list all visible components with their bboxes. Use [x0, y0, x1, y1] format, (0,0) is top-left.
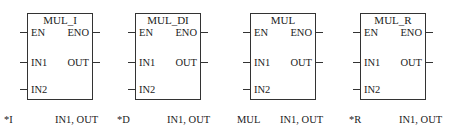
mul-di-block: MUL_DI EN IN1 IN2 ENO OUT [135, 13, 201, 100]
mul-i-block: MUL_I EN IN1 IN2 ENO OUT [27, 13, 93, 100]
stl-operands: IN1, OUT [399, 114, 442, 126]
out-output-wire [93, 62, 100, 63]
out-pin-label: OUT [175, 57, 197, 68]
in2-pin-label: IN2 [364, 84, 380, 95]
out-output-wire [316, 62, 323, 63]
out-output-wire [426, 62, 433, 63]
eno-output-wire [316, 32, 323, 33]
mul-block: MUL EN IN1 IN2 ENO OUT [250, 13, 316, 100]
out-pin-label: OUT [67, 57, 89, 68]
en-pin-label: EN [254, 27, 268, 38]
en-pin-label: EN [139, 27, 153, 38]
stl-operands: IN1, OUT [55, 114, 98, 126]
eno-pin-label: ENO [290, 27, 312, 38]
out-output-wire [201, 62, 208, 63]
out-pin-label: OUT [290, 57, 312, 68]
in1-input-wire [353, 62, 360, 63]
en-pin-label: EN [364, 27, 378, 38]
in2-pin-label: IN2 [139, 84, 155, 95]
eno-pin-label: ENO [67, 27, 89, 38]
en-input-wire [20, 32, 27, 33]
eno-output-wire [93, 32, 100, 33]
stl-mnemonic: MUL [237, 114, 260, 126]
eno-output-wire [426, 32, 433, 33]
in2-input-wire [20, 89, 27, 90]
out-pin-label: OUT [400, 57, 422, 68]
in2-input-wire [243, 89, 250, 90]
stl-mnemonic: *I [4, 114, 13, 126]
eno-output-wire [201, 32, 208, 33]
stl-operands: IN1, OUT [167, 114, 210, 126]
en-input-wire [243, 32, 250, 33]
in2-pin-label: IN2 [31, 84, 47, 95]
en-input-wire [353, 32, 360, 33]
block-title: MUL_DI [136, 15, 200, 26]
in1-pin-label: IN1 [364, 57, 380, 68]
in2-input-wire [353, 89, 360, 90]
eno-pin-label: ENO [175, 27, 197, 38]
stl-mnemonic: *R [349, 114, 361, 126]
in1-input-wire [20, 62, 27, 63]
block-title: MUL_I [28, 15, 92, 26]
mul-r-block: MUL_R EN IN1 IN2 ENO OUT [360, 13, 426, 100]
in1-pin-label: IN1 [31, 57, 47, 68]
in1-pin-label: IN1 [139, 57, 155, 68]
in1-input-wire [243, 62, 250, 63]
in2-input-wire [128, 89, 135, 90]
in1-input-wire [128, 62, 135, 63]
block-title: MUL [251, 15, 315, 26]
in1-pin-label: IN1 [254, 57, 270, 68]
stl-mnemonic: *D [117, 114, 130, 126]
en-pin-label: EN [31, 27, 45, 38]
stl-operands: IN1, OUT [280, 114, 323, 126]
in2-pin-label: IN2 [254, 84, 270, 95]
block-title: MUL_R [361, 15, 425, 26]
eno-pin-label: ENO [400, 27, 422, 38]
en-input-wire [128, 32, 135, 33]
